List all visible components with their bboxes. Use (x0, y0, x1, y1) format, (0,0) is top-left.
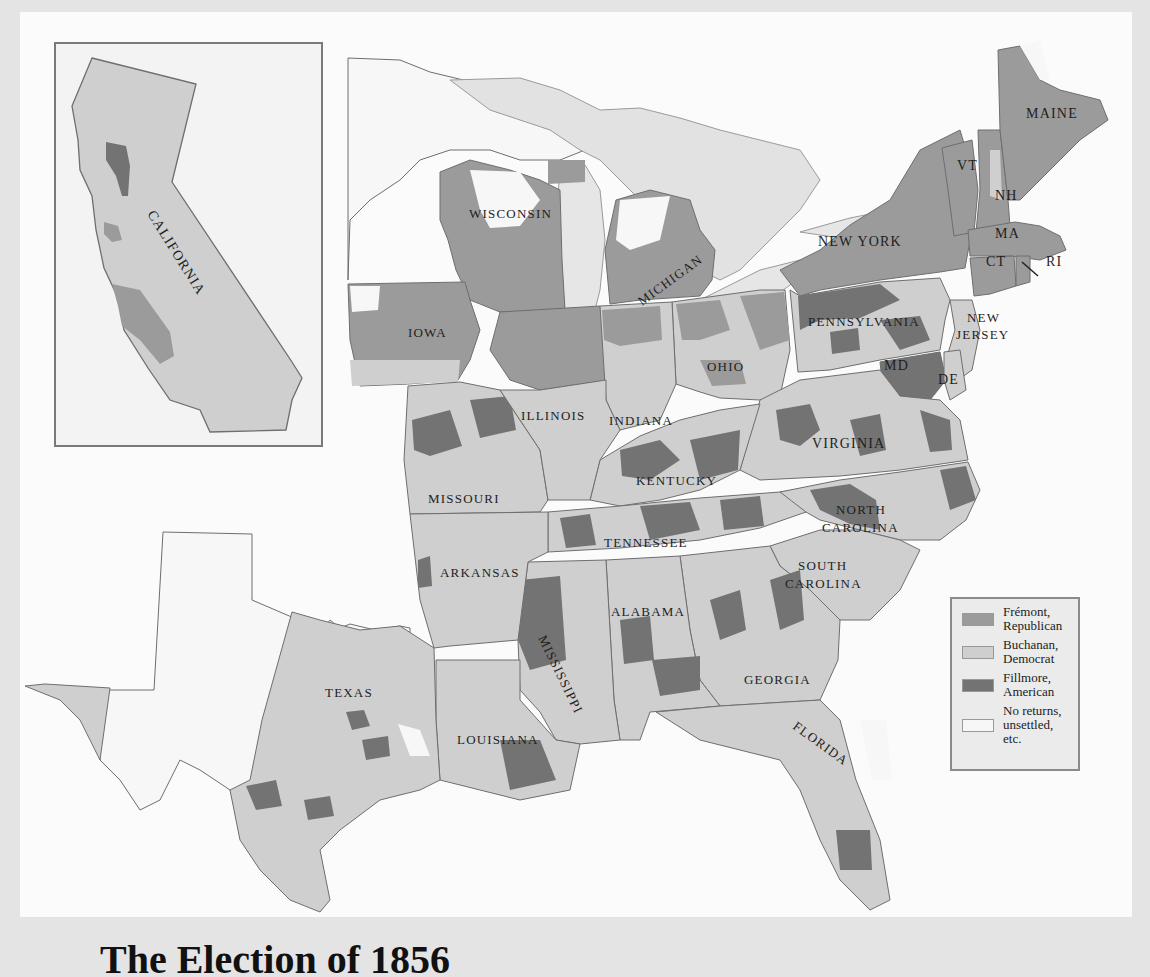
swatch-fillmore-icon (962, 679, 994, 692)
label-indiana: INDIANA (609, 413, 673, 428)
label-tennessee: TENNESSEE (604, 535, 688, 550)
rhode-island (1016, 256, 1030, 286)
label-vt: VT (957, 158, 978, 173)
map-legend: Frémont,Republican Buchanan,Democrat Fil… (950, 597, 1080, 771)
label-new-york: NEW YORK (818, 234, 902, 249)
label-georgia: GEORGIA (744, 672, 811, 687)
label-ri: RI (1046, 254, 1062, 269)
label-south-carolina-1: SOUTH (798, 558, 847, 573)
label-wisconsin: WISCONSIN (469, 206, 552, 221)
swatch-buchanan-icon (962, 646, 994, 659)
legend-item-no-returns: No returns,unsettled, etc. (962, 704, 1074, 746)
label-arkansas: ARKANSAS (440, 565, 520, 580)
legend-item-fillmore: Fillmore,American (962, 671, 1074, 699)
label-north-carolina-1: NORTH (836, 502, 886, 517)
legend-fremont-line2: Republican (1003, 618, 1062, 633)
label-virginia: VIRGINIA (812, 436, 885, 451)
legend-fremont-line1: Frémont, (1003, 604, 1050, 619)
map-caption: The Election of 1856 (100, 940, 450, 977)
swatch-fremont-icon (962, 613, 994, 626)
legend-item-fremont: Frémont,Republican (962, 605, 1074, 633)
label-maine: MAINE (1026, 106, 1078, 121)
legend-buchanan-line2: Democrat (1003, 651, 1054, 666)
legend-item-buchanan: Buchanan,Democrat (962, 638, 1074, 666)
label-north-carolina-2: CAROLINA (822, 520, 899, 535)
label-missouri: MISSOURI (428, 491, 500, 506)
swatch-no-returns-icon (962, 719, 994, 732)
legend-buchanan-line1: Buchanan, (1003, 637, 1058, 652)
label-ma: MA (995, 226, 1020, 241)
label-illinois: ILLINOIS (521, 408, 585, 423)
label-louisiana: LOUISIANA (457, 732, 539, 747)
legend-fillmore-line2: American (1003, 684, 1054, 699)
legend-no-returns-line1: No returns, (1003, 703, 1062, 718)
label-nh: NH (995, 188, 1018, 203)
label-de: DE (938, 372, 959, 387)
label-md: MD (884, 358, 909, 373)
maine (998, 46, 1108, 200)
label-ct: CT (986, 254, 1006, 269)
label-texas: TEXAS (325, 685, 373, 700)
label-iowa: IOWA (408, 325, 447, 340)
label-ohio: OHIO (707, 359, 744, 374)
label-south-carolina-2: CAROLINA (785, 576, 862, 591)
label-new-jersey-1: NEW (967, 310, 1000, 325)
label-kentucky: KENTUCKY (636, 473, 717, 488)
label-alabama: ALABAMA (611, 604, 685, 619)
legend-no-returns-line2: unsettled, etc. (1003, 717, 1053, 746)
label-new-jersey-2: JERSEY (956, 327, 1009, 342)
california-inset: CALIFORNIA (55, 43, 322, 446)
legend-fillmore-line1: Fillmore, (1003, 670, 1051, 685)
label-pennsylvania: PENNSYLVANIA (808, 314, 920, 329)
